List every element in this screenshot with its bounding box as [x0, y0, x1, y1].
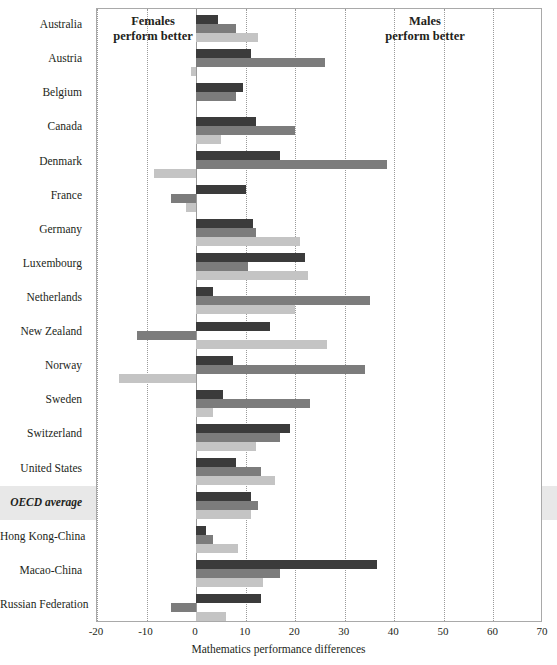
bar-group	[97, 390, 541, 417]
category-label: Denmark	[0, 155, 90, 167]
bar-group	[97, 492, 541, 519]
bar	[196, 126, 295, 135]
x-tick-label: 60	[472, 625, 512, 637]
bar	[196, 117, 255, 126]
bar-group	[97, 287, 541, 314]
bar-group	[97, 219, 541, 246]
bar	[196, 526, 206, 535]
category-label: New Zealand	[0, 325, 90, 337]
category-label: Russian Federation	[0, 598, 90, 610]
bar	[171, 603, 196, 612]
bar	[196, 492, 251, 501]
bar	[196, 433, 280, 442]
bar	[196, 262, 248, 271]
bar	[119, 374, 196, 383]
bar-group	[97, 594, 541, 621]
bar-group	[97, 526, 541, 553]
category-label: Luxembourg	[0, 257, 90, 269]
bar	[154, 169, 196, 178]
bar	[196, 228, 255, 237]
category-label: Macao-China	[0, 564, 90, 576]
bar-group	[97, 49, 541, 76]
category-label: Austria	[0, 52, 90, 64]
x-tick-label: 50	[423, 625, 463, 637]
x-tick-label: 70	[522, 625, 557, 637]
bar	[137, 331, 196, 340]
category-label: Hong Kong-China	[0, 530, 90, 542]
bar-group	[97, 151, 541, 178]
bar-group	[97, 356, 541, 383]
bar	[191, 67, 196, 76]
chart-figure: AustraliaAustriaBelgiumCanadaDenmarkFran…	[0, 0, 557, 665]
x-tick-label: 20	[274, 625, 314, 637]
category-label: United States	[0, 462, 90, 474]
bar	[196, 390, 223, 399]
bar-group	[97, 424, 541, 451]
category-label: Norway	[0, 359, 90, 371]
bar	[196, 322, 270, 331]
category-label: Canada	[0, 120, 90, 132]
bar	[196, 253, 305, 262]
bar-group	[97, 185, 541, 212]
bar	[196, 560, 377, 569]
bar	[186, 203, 196, 212]
bar	[196, 135, 221, 144]
category-axis-labels: AustraliaAustriaBelgiumCanadaDenmarkFran…	[0, 0, 90, 665]
bar	[196, 305, 295, 314]
annotation-females-perform-better: Femalesperform better	[103, 14, 203, 44]
bar	[196, 408, 213, 417]
x-tick-label: 0	[175, 625, 215, 637]
bar	[196, 340, 327, 349]
bar	[196, 594, 260, 603]
bar-group	[97, 117, 541, 144]
plot-area	[96, 8, 542, 622]
category-label: Sweden	[0, 393, 90, 405]
x-axis-title: Mathematics performance differences	[0, 643, 557, 655]
category-label: OECD average	[0, 496, 90, 508]
bar	[196, 476, 275, 485]
bar	[196, 442, 255, 451]
bar	[196, 569, 280, 578]
category-label: Switzerland	[0, 427, 90, 439]
category-label: France	[0, 189, 90, 201]
bar	[196, 151, 280, 160]
bar	[196, 92, 236, 101]
bar	[196, 356, 233, 365]
bar-group	[97, 322, 541, 349]
bar-group	[97, 560, 541, 587]
bar	[196, 612, 226, 621]
bar	[196, 424, 290, 433]
bar	[196, 535, 213, 544]
x-tick-label: -10	[126, 625, 166, 637]
bar	[196, 544, 238, 553]
bar	[196, 578, 263, 587]
category-label: Australia	[0, 18, 90, 30]
bar	[196, 287, 213, 296]
bar-group	[97, 458, 541, 485]
bar	[196, 467, 260, 476]
x-tick-label: 10	[225, 625, 265, 637]
category-label: Germany	[0, 223, 90, 235]
bar	[196, 160, 387, 169]
annotation-males-perform-better: Malesperform better	[370, 14, 480, 44]
bar	[196, 271, 308, 280]
x-tick-label: -20	[76, 625, 116, 637]
category-label: Netherlands	[0, 291, 90, 303]
bar	[171, 194, 196, 203]
bar	[196, 296, 369, 305]
bar	[196, 237, 300, 246]
bar	[196, 58, 325, 67]
category-label: Belgium	[0, 86, 90, 98]
bar	[196, 501, 258, 510]
bar	[196, 49, 251, 58]
bar-group	[97, 253, 541, 280]
x-tick-label: 30	[324, 625, 364, 637]
x-axis-tick-labels: -20-10010203040506070	[0, 625, 557, 641]
bar	[196, 83, 243, 92]
bar-group	[97, 83, 541, 110]
bar	[196, 33, 258, 42]
bar	[196, 185, 246, 194]
x-tick-label: 40	[373, 625, 413, 637]
bar	[196, 399, 310, 408]
bar	[196, 458, 236, 467]
